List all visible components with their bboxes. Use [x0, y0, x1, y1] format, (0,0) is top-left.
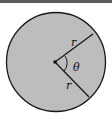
center-point	[53, 60, 57, 64]
radius-label-upper: r	[71, 36, 77, 49]
angle-label-theta: θ	[73, 61, 80, 74]
radius-label-lower: r	[66, 79, 72, 92]
sector-diagram: r r θ	[0, 0, 112, 119]
